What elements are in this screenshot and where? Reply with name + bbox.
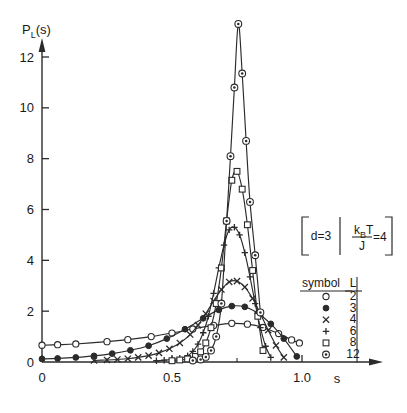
dotted-circle-marker-dot <box>237 23 240 26</box>
plot-svg: 24681012000.51.0PL(s)sd=3kBTJ=4symbolL23… <box>0 0 407 413</box>
y-axis-arrow <box>39 38 46 52</box>
filled-circle-marker <box>242 304 248 310</box>
x-axis-arrow <box>369 359 383 366</box>
plus-marker <box>252 300 258 306</box>
param-denominator: J <box>359 239 365 253</box>
x-tick-label: 1.0 <box>293 370 311 385</box>
data-series <box>153 224 274 364</box>
y-ticks: 246810120 <box>20 50 49 371</box>
cross-marker <box>242 284 248 290</box>
open-circle-marker <box>55 342 61 348</box>
param-box-left-bracket <box>302 217 309 255</box>
cross-marker <box>226 279 232 285</box>
filled-circle-marker <box>281 336 287 342</box>
legend-row-value: 12 <box>346 347 360 361</box>
dotted-circle-marker-dot <box>249 201 252 204</box>
filled-circle-marker <box>127 347 133 353</box>
filled-circle-marker <box>229 303 235 309</box>
open-circle-marker <box>229 320 235 326</box>
open-square-marker <box>323 340 329 346</box>
filled-circle-marker <box>146 343 152 349</box>
open-square-marker <box>239 186 245 192</box>
data-series <box>39 320 303 348</box>
y-axis-label: PL(s) <box>22 22 51 40</box>
series-line <box>193 24 261 361</box>
y-tick-label-zero: 0 <box>27 355 34 370</box>
open-circle-marker <box>296 340 302 346</box>
filled-circle-marker <box>164 336 170 342</box>
plus-marker <box>195 341 201 347</box>
filled-circle-marker <box>39 356 45 362</box>
plus-marker <box>236 232 242 238</box>
param-value: =4 <box>373 230 387 244</box>
dotted-circle-marker-dot <box>254 254 257 257</box>
open-circle-marker <box>73 341 79 347</box>
open-circle-marker <box>323 293 329 299</box>
plus-marker <box>247 274 253 280</box>
dotted-circle-marker-dot <box>205 356 208 359</box>
open-square-marker <box>198 349 204 355</box>
cross-marker <box>281 354 287 360</box>
data-series <box>189 21 263 364</box>
dotted-circle-marker-dot <box>325 353 328 356</box>
open-square-marker <box>245 222 251 228</box>
dotted-circle-marker-dot <box>210 349 213 352</box>
dotted-circle-marker-dot <box>225 220 228 223</box>
parameter-box: d=3kBTJ=4 <box>302 217 392 255</box>
open-square-marker <box>234 168 240 174</box>
plus-marker <box>242 250 248 256</box>
y-tick-label: 8 <box>27 151 34 166</box>
dotted-circle-marker-dot <box>241 72 244 75</box>
dotted-circle-marker-dot <box>233 86 236 89</box>
open-circle-marker <box>104 339 110 345</box>
cross-marker <box>323 317 329 323</box>
plus-marker <box>323 328 329 334</box>
cross-marker <box>273 342 279 348</box>
dotted-circle-marker-dot <box>259 311 262 314</box>
open-circle-marker <box>289 337 295 343</box>
dotted-circle-marker-dot <box>199 358 202 361</box>
open-square-marker <box>250 268 256 274</box>
cross-marker <box>177 340 183 346</box>
param-dimension-label: d=3 <box>311 229 332 243</box>
open-square-marker <box>260 348 266 354</box>
figure-canvas: 24681012000.51.0PL(s)sd=3kBTJ=4symbolL23… <box>0 0 407 413</box>
data-series <box>91 278 287 364</box>
data-series-group <box>39 21 303 364</box>
filled-circle-marker <box>73 355 79 361</box>
filled-circle-marker <box>109 351 115 357</box>
y-tick-label: 2 <box>27 304 34 319</box>
filled-circle-marker <box>323 305 329 311</box>
y-tick-label: 12 <box>20 50 34 65</box>
open-circle-marker <box>148 333 154 339</box>
open-square-marker <box>169 358 175 364</box>
dotted-circle-marker-dot <box>229 155 232 158</box>
filled-circle-marker <box>55 356 61 362</box>
dotted-circle-marker-dot <box>192 359 195 362</box>
dotted-circle-marker-dot <box>215 335 218 338</box>
legend-header-L: L <box>350 276 357 290</box>
cross-marker <box>187 331 193 337</box>
y-tick-label: 4 <box>27 253 34 268</box>
y-tick-label: 10 <box>20 100 34 115</box>
cross-marker <box>156 350 162 356</box>
open-square-marker <box>177 357 183 363</box>
cross-marker <box>166 346 172 352</box>
plus-marker <box>153 358 159 364</box>
cross-marker <box>195 322 201 328</box>
x-axis-label: s <box>334 371 341 386</box>
legend-header-symbol: symbol <box>302 276 340 290</box>
filled-circle-marker <box>294 354 300 360</box>
dotted-circle-marker-dot <box>245 140 248 143</box>
open-circle-marker <box>244 321 250 327</box>
open-square-marker <box>203 340 209 346</box>
open-circle-marker <box>125 337 131 343</box>
legend: symbolL2346812 <box>300 276 362 363</box>
open-square-marker <box>208 325 214 331</box>
x-tick-label: 0.5 <box>163 370 181 385</box>
x-tick-label: 0 <box>38 370 45 385</box>
plus-marker <box>210 290 216 296</box>
filled-circle-marker <box>182 326 188 332</box>
open-circle-marker <box>39 342 45 348</box>
legend-row: 12 <box>323 347 360 361</box>
